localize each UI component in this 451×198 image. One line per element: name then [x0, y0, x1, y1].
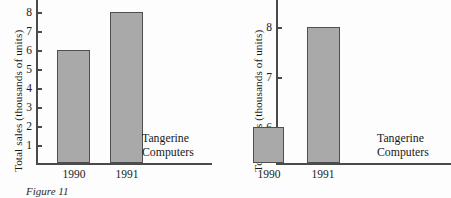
x-tick-label-1991: 1991: [304, 168, 342, 180]
bar-1990: [57, 50, 90, 163]
y-tick-label: 4: [16, 82, 32, 94]
y-tick-mark: [276, 27, 282, 29]
y-tick-label: 3: [16, 101, 32, 113]
y-tick-mark: [36, 88, 42, 90]
y-tick-mark: [36, 107, 42, 109]
series-annotation-line2: Computers: [377, 146, 429, 160]
figure-caption: Figure 11: [26, 185, 68, 198]
y-tick-mark: [36, 50, 42, 52]
y-tick-mark: [36, 69, 42, 71]
y-tick-mark: [36, 126, 42, 128]
y-tick-label: 6: [16, 44, 32, 56]
bar-1991: [307, 27, 340, 163]
y-tick-label: 8: [256, 21, 272, 33]
y-tick-label: 2: [16, 120, 32, 132]
y-tick-label: 7: [16, 25, 32, 37]
x-axis-line: [36, 163, 212, 165]
chart-left-full-axis: Total sales (thousands of units) 8 7 6 5…: [0, 0, 226, 198]
y-tick-label: 8: [16, 6, 32, 18]
figure-bar-chart-pair: Total sales (thousands of units) 8 7 6 5…: [0, 0, 451, 198]
y-tick-mark: [36, 12, 42, 14]
y-tick-label: 7: [256, 71, 272, 83]
x-tick-label-1991: 1991: [108, 168, 146, 180]
x-axis-line: [276, 163, 451, 165]
y-tick-mark: [276, 77, 282, 79]
bar-1991: [110, 12, 143, 163]
y-axis-line: [36, 0, 38, 164]
series-annotation-line1: Tangerine: [377, 132, 429, 146]
y-tick-label: 5: [16, 63, 32, 75]
x-tick-label-1990: 1990: [250, 168, 288, 180]
bar-1990: [253, 127, 284, 163]
y-tick-mark: [36, 31, 42, 33]
x-tick-label-1990: 1990: [55, 168, 93, 180]
series-annotation-line1: Tangerine: [142, 132, 194, 146]
y-tick-label: 1: [16, 139, 32, 151]
series-annotation-line2: Computers: [142, 146, 194, 160]
series-annotation: Tangerine Computers: [377, 132, 429, 160]
y-tick-mark: [36, 145, 42, 147]
chart-right-truncated-axis: Total sales (thousands of units) 8 7 6 1…: [225, 0, 451, 198]
series-annotation: Tangerine Computers: [142, 132, 194, 160]
